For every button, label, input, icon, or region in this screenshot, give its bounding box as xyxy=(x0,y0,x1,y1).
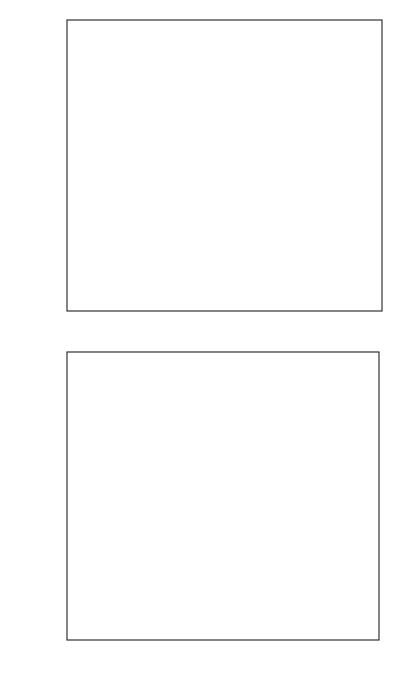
bottom-plot-frame xyxy=(67,352,379,640)
top-plot-frame xyxy=(67,20,382,311)
top-chart xyxy=(67,20,382,311)
figure xyxy=(0,0,405,694)
bottom-chart xyxy=(67,352,379,640)
